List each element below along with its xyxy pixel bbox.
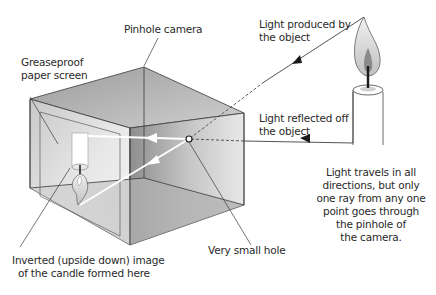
explanation-text: Light travels in all directions, but onl… <box>307 166 435 244</box>
arrow-produced-icon <box>292 55 302 64</box>
pinhole <box>186 136 192 142</box>
pinhole-camera-box <box>30 67 244 245</box>
label-light-produced-line1: Light produced by <box>259 18 351 31</box>
label-light-reflected-line2: the object <box>259 125 310 138</box>
explanation-line6: the camera. <box>307 231 435 244</box>
label-inverted-line1: Inverted (upside down) image <box>12 254 164 267</box>
label-small-hole: Very small hole <box>208 244 285 257</box>
explanation-line4: point goes through <box>307 205 435 218</box>
explanation-line5: the pinhole of <box>307 218 435 231</box>
label-light-reflected-line1: Light reflected off <box>259 112 349 125</box>
explanation-line3: one ray from any one <box>307 192 435 205</box>
label-light-produced-line2: the object <box>259 31 310 44</box>
label-pinhole-camera: Pinhole camera <box>124 23 202 36</box>
explanation-line1: Light travels in all <box>307 166 435 179</box>
candle <box>353 17 383 145</box>
label-greaseproof-line2: paper screen <box>21 69 87 82</box>
label-greaseproof-line1: Greaseproof <box>21 56 83 69</box>
explanation-line2: directions, but only <box>307 179 435 192</box>
label-inverted-line2: of the candle formed here <box>18 267 150 280</box>
